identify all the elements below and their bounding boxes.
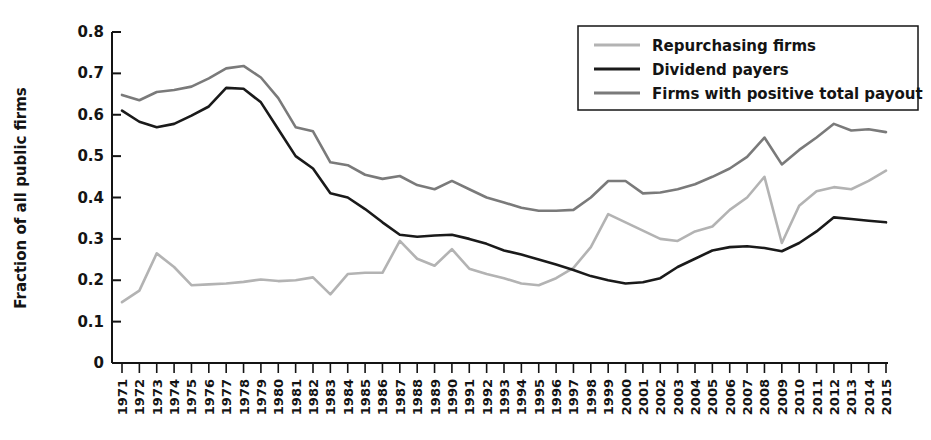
y-tick-label: 0.4 — [77, 189, 104, 207]
x-tick-label: 2012 — [827, 379, 842, 415]
x-tick-label: 1997 — [566, 379, 581, 415]
chart-legend: Repurchasing firmsDividend payersFirms w… — [578, 26, 923, 110]
x-tick-label: 1989 — [428, 379, 443, 415]
x-tick-label: 2013 — [844, 379, 859, 415]
x-tick-label: 2009 — [775, 379, 790, 415]
legend-label-2: Firms with positive total payout — [652, 85, 923, 103]
x-tick-label: 1975 — [184, 379, 199, 415]
x-tick-label: 1995 — [532, 379, 547, 415]
x-tick-label: 1971 — [115, 379, 130, 415]
y-tick-label: 0.3 — [77, 230, 104, 248]
y-tick-label: 0.6 — [77, 106, 104, 124]
x-tick-label: 2003 — [671, 379, 686, 415]
x-tick-label: 1983 — [323, 379, 338, 415]
x-tick-label: 2015 — [879, 379, 894, 415]
x-tick-label: 2006 — [723, 379, 738, 415]
x-tick-label: 1981 — [289, 379, 304, 415]
x-tick-label: 1993 — [497, 379, 512, 415]
legend-label-1: Dividend payers — [652, 61, 789, 79]
y-tick-label: 0.5 — [77, 147, 104, 165]
y-tick-label: 0 — [94, 354, 104, 372]
x-tick-label: 1973 — [150, 379, 165, 415]
x-tick-label: 1974 — [167, 379, 182, 415]
y-tick-label: 0.7 — [77, 64, 104, 82]
x-tick-label: 2007 — [740, 379, 755, 415]
x-tick-label: 2014 — [862, 379, 877, 415]
x-tick-label: 2004 — [688, 379, 703, 415]
x-tick-label: 2005 — [705, 379, 720, 415]
y-axis-title: Fraction of all public firms — [12, 87, 30, 309]
x-tick-label: 1988 — [410, 379, 425, 415]
x-tick-label: 1980 — [271, 379, 286, 415]
x-tick-label: 1990 — [445, 379, 460, 415]
x-tick-label: 1985 — [358, 379, 373, 415]
x-tick-label: 1984 — [341, 379, 356, 415]
y-tick-label: 0.1 — [77, 313, 104, 331]
x-tick-label: 2001 — [636, 379, 651, 415]
x-tick-label: 1998 — [584, 379, 599, 415]
x-tick-label: 1982 — [306, 379, 321, 415]
x-tick-label: 1977 — [219, 379, 234, 415]
x-tick-label: 2010 — [792, 379, 807, 415]
legend-label-0: Repurchasing firms — [652, 37, 816, 55]
x-tick-label: 1976 — [202, 379, 217, 415]
y-tick-label: 0.8 — [77, 23, 104, 41]
x-tick-label: 1991 — [462, 379, 477, 415]
x-tick-label: 1986 — [375, 379, 390, 415]
x-tick-label: 1994 — [514, 379, 529, 415]
x-tick-label: 1996 — [549, 379, 564, 415]
x-tick-label: 1999 — [601, 379, 616, 415]
x-tick-label: 1987 — [393, 379, 408, 415]
x-tick-label: 2002 — [653, 379, 668, 415]
x-tick-label: 2000 — [619, 379, 634, 415]
y-tick-label: 0.2 — [77, 271, 104, 289]
chart-container: 00.10.20.30.40.50.60.70.8 19711972197319… — [0, 0, 931, 440]
x-tick-label: 1972 — [132, 379, 147, 415]
x-tick-label: 1978 — [237, 379, 252, 415]
x-tick-label: 2011 — [810, 379, 825, 415]
x-tick-label: 1992 — [480, 379, 495, 415]
payout-trends-line-chart: 00.10.20.30.40.50.60.70.8 19711972197319… — [0, 0, 931, 440]
x-tick-label: 2008 — [757, 379, 772, 415]
x-tick-label: 1979 — [254, 379, 269, 415]
